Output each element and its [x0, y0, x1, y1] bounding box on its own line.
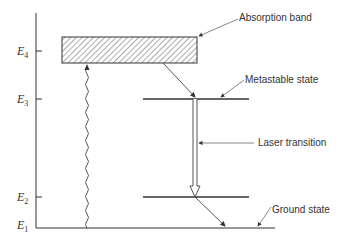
pump-wavy-arrow — [86, 67, 89, 228]
pump-arrowhead-icon — [85, 64, 90, 70]
label-laser-transition: Laser transition — [258, 137, 326, 148]
absorption-band-box — [62, 37, 197, 63]
label-e1: E1 — [16, 218, 28, 234]
label-metastable-state: Metastable state — [245, 74, 319, 85]
leader-absorption-band — [199, 19, 238, 36]
label-e3: E3 — [16, 92, 28, 108]
relaxation-arrow-e2-to-ground — [195, 197, 225, 226]
label-e2: E2 — [16, 190, 28, 206]
label-ground-state: Ground state — [272, 204, 330, 215]
leader-metastable-state — [221, 80, 244, 97]
label-absorption-band: Absorption band — [239, 12, 312, 23]
label-e4: E4 — [16, 44, 28, 60]
energy-level-diagram: E4 E3 E2 E1 Absorption band Metastable s… — [0, 0, 349, 243]
leader-ground-state — [258, 207, 271, 226]
laser-transition-arrow — [190, 99, 200, 197]
relaxation-arrow-band-to-metastable — [163, 63, 195, 97]
